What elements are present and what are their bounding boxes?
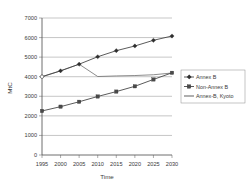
- y-tick-marks: [39, 18, 42, 155]
- x-tick-label-2025: 2025: [147, 161, 159, 167]
- series-markers-annex-b-kyoto: [40, 75, 43, 78]
- y-tick-labels: 7000 6000 5000 4000 3000 2000 1000 0: [25, 15, 37, 158]
- y-tick-label-7000: 7000: [25, 15, 37, 21]
- data-point: [77, 100, 80, 103]
- data-point: [133, 85, 136, 88]
- series-markers-non-annex-b: [40, 71, 173, 113]
- y-tick-label-1000: 1000: [25, 132, 37, 138]
- x-tick-label-1995: 1995: [36, 161, 48, 167]
- data-point: [59, 105, 62, 108]
- legend-label-annex-b-kyoto: Annex-B, Kyoto: [196, 93, 233, 99]
- y-tick-label-4000: 4000: [25, 74, 37, 80]
- data-point: [96, 55, 100, 59]
- x-tick-label-2000: 2000: [54, 161, 66, 167]
- legend: Annex B Non-Annex B Annex-B, Kyoto: [181, 70, 245, 103]
- data-point: [40, 109, 43, 112]
- data-point: [114, 49, 118, 53]
- data-point: [58, 69, 62, 73]
- x-tick-label-2010: 2010: [91, 161, 103, 167]
- data-point: [152, 78, 155, 81]
- data-point: [77, 62, 81, 66]
- data-point: [133, 44, 137, 48]
- series-markers-annex-b: [40, 34, 174, 79]
- x-tick-label-2030: 2030: [166, 161, 178, 167]
- line-chart: 7000 6000 5000 4000 3000 2000 1000 0 199…: [0, 0, 251, 188]
- y-tick-label-2000: 2000: [25, 113, 37, 119]
- data-point: [151, 38, 155, 42]
- axis-lines: [42, 18, 172, 155]
- x-tick-label-2015: 2015: [110, 161, 122, 167]
- y-tick-label-6000: 6000: [25, 35, 37, 41]
- y-tick-label-3000: 3000: [25, 93, 37, 99]
- data-point: [170, 71, 173, 74]
- gridlines: [42, 18, 172, 135]
- square-icon: [187, 85, 191, 89]
- y-tick-label-0: 0: [34, 152, 37, 158]
- x-tick-label-2020: 2020: [129, 161, 141, 167]
- data-point-origin: [40, 75, 43, 78]
- data-point: [115, 90, 118, 93]
- chart-container: 7000 6000 5000 4000 3000 2000 1000 0 199…: [0, 0, 251, 188]
- legend-label-annex-b: Annex B: [196, 74, 217, 80]
- x-axis-title: Time: [100, 173, 114, 180]
- x-tick-marks: [42, 155, 172, 158]
- series-group: [40, 34, 174, 113]
- legend-label-non-annex-b: Non-Annex B: [196, 84, 228, 90]
- y-tick-label-5000: 5000: [25, 54, 37, 60]
- data-point: [96, 95, 99, 98]
- y-axis-title: MtC: [6, 82, 13, 94]
- x-tick-label-2005: 2005: [73, 161, 85, 167]
- x-tick-labels: 1995 2000 2005 2010 2015 2020 2025 2030: [36, 161, 178, 167]
